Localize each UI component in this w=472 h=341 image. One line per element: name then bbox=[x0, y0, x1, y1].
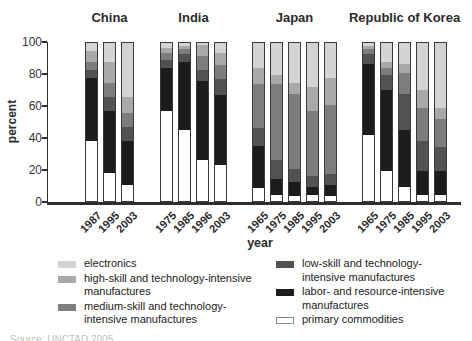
bar-india-1985 bbox=[178, 42, 191, 202]
legend-swatch-high bbox=[58, 276, 76, 283]
legend-swatch-medium bbox=[58, 304, 76, 311]
bar-segment-electronics bbox=[122, 43, 133, 97]
bar-segment-primary bbox=[435, 195, 446, 201]
bar-segment-medium bbox=[307, 111, 318, 176]
bar-segment-primary bbox=[399, 187, 410, 201]
group-title-china: China bbox=[91, 10, 127, 25]
bar-segment-labor bbox=[179, 62, 190, 130]
y-tick-mark-20 bbox=[42, 169, 47, 171]
bar-segment-electronics bbox=[399, 43, 410, 64]
bar-segment-high bbox=[215, 53, 226, 66]
bar-segment-low bbox=[307, 176, 318, 187]
bar-segment-primary bbox=[197, 160, 208, 201]
bar-segment-electronics bbox=[307, 43, 318, 87]
bar-segment-medium bbox=[253, 84, 264, 128]
bar-segment-labor bbox=[307, 187, 318, 195]
bar-segment-primary bbox=[104, 173, 115, 201]
bar-segment-medium bbox=[215, 65, 226, 79]
bar-segment-labor bbox=[435, 171, 446, 195]
y-tick-label-40: 40 bbox=[10, 131, 42, 145]
bar-india-1975 bbox=[160, 42, 173, 202]
bar-segment-low bbox=[399, 94, 410, 130]
bar-segment-high bbox=[307, 87, 318, 111]
legend-item-low: low-skill and technology-intensive manuf… bbox=[276, 257, 464, 284]
x-axis-line bbox=[47, 202, 461, 205]
bar-segment-low bbox=[86, 70, 97, 78]
bar-segment-labor bbox=[122, 141, 133, 185]
bar-segment-labor bbox=[215, 95, 226, 165]
bar-segment-high bbox=[253, 68, 264, 84]
bar-china-1987 bbox=[85, 42, 98, 202]
bar-segment-low bbox=[363, 54, 374, 63]
bar-japan-1975 bbox=[270, 42, 283, 202]
bar-segment-primary bbox=[86, 141, 97, 201]
bar-segment-medium bbox=[417, 108, 428, 141]
bar-segment-low bbox=[197, 70, 208, 81]
bar-segment-primary bbox=[289, 196, 300, 201]
plot-area bbox=[48, 42, 465, 202]
y-tick-mark-40 bbox=[42, 137, 47, 139]
legend-swatch-primary bbox=[276, 317, 294, 324]
bar-segment-medium bbox=[399, 73, 410, 94]
bar-segment-low bbox=[179, 54, 190, 62]
bar-japan-1995 bbox=[306, 42, 319, 202]
bar-segment-primary bbox=[325, 196, 336, 201]
bar-segment-labor bbox=[86, 78, 97, 141]
bar-india-1996 bbox=[196, 42, 209, 202]
bar-segment-low bbox=[271, 160, 282, 179]
legend-label-low: low-skill and technology-intensive manuf… bbox=[302, 257, 464, 284]
stacked-bar-chart: percent year electronicshigh-skill and t… bbox=[0, 0, 472, 341]
legend-item-high: high-skill and technology-intensive manu… bbox=[58, 272, 276, 299]
bar-republic-of-korea-1975 bbox=[380, 42, 393, 202]
legend-item-electronics: electronics bbox=[58, 257, 276, 271]
bar-segment-labor bbox=[161, 68, 172, 111]
bar-segment-high bbox=[104, 62, 115, 83]
legend-label-labor: labor- and resource-intensive manufactur… bbox=[302, 285, 464, 312]
legend: electronicshigh-skill and technology-int… bbox=[58, 257, 464, 327]
bar-segment-low bbox=[417, 141, 428, 171]
bar-segment-electronics bbox=[86, 43, 97, 51]
legend-swatch-low bbox=[276, 261, 294, 268]
group-title-india: India bbox=[178, 10, 208, 25]
bar-republic-of-korea-1965 bbox=[362, 42, 375, 202]
group-title-republic-of-korea: Republic of Korea bbox=[349, 10, 460, 25]
bar-segment-labor bbox=[399, 130, 410, 187]
bar-segment-high bbox=[197, 45, 208, 56]
y-tick-mark-0 bbox=[42, 201, 47, 203]
y-tick-label-20: 20 bbox=[10, 163, 42, 177]
bar-segment-primary bbox=[381, 171, 392, 201]
bar-japan-2003 bbox=[324, 42, 337, 202]
bar-segment-medium bbox=[435, 119, 446, 147]
bar-segment-labor bbox=[253, 146, 264, 189]
y-tick-mark-80 bbox=[42, 73, 47, 75]
legend-item-medium: medium-skill and technology-intensive ma… bbox=[58, 300, 276, 327]
bar-segment-medium bbox=[86, 62, 97, 70]
bar-segment-medium bbox=[161, 53, 172, 61]
bar-segment-labor bbox=[381, 90, 392, 171]
bar-segment-primary bbox=[417, 195, 428, 201]
bar-segment-primary bbox=[253, 188, 264, 201]
bar-segment-medium bbox=[197, 56, 208, 70]
bar-segment-medium bbox=[104, 83, 115, 97]
bar-segment-labor bbox=[325, 185, 336, 196]
bar-segment-high bbox=[86, 51, 97, 62]
bar-segment-medium bbox=[271, 84, 282, 160]
bar-segment-primary bbox=[122, 185, 133, 201]
bar-segment-medium bbox=[289, 94, 300, 170]
bar-segment-low bbox=[253, 128, 264, 145]
bar-segment-high bbox=[435, 108, 446, 119]
y-tick-label-60: 60 bbox=[10, 99, 42, 113]
bar-segment-labor bbox=[197, 81, 208, 160]
bar-china-1995 bbox=[103, 42, 116, 202]
bar-segment-labor bbox=[417, 171, 428, 195]
bar-segment-low bbox=[435, 147, 446, 171]
bar-segment-primary bbox=[215, 165, 226, 201]
legend-column-right: low-skill and technology-intensive manuf… bbox=[276, 257, 464, 327]
bar-segment-medium bbox=[325, 105, 336, 175]
legend-label-medium: medium-skill and technology-intensive ma… bbox=[84, 300, 266, 327]
bar-segment-primary bbox=[271, 195, 282, 201]
y-tick-mark-100 bbox=[42, 41, 47, 43]
bar-segment-high bbox=[289, 83, 300, 94]
bar-segment-labor bbox=[104, 111, 115, 173]
bar-segment-primary bbox=[161, 111, 172, 201]
